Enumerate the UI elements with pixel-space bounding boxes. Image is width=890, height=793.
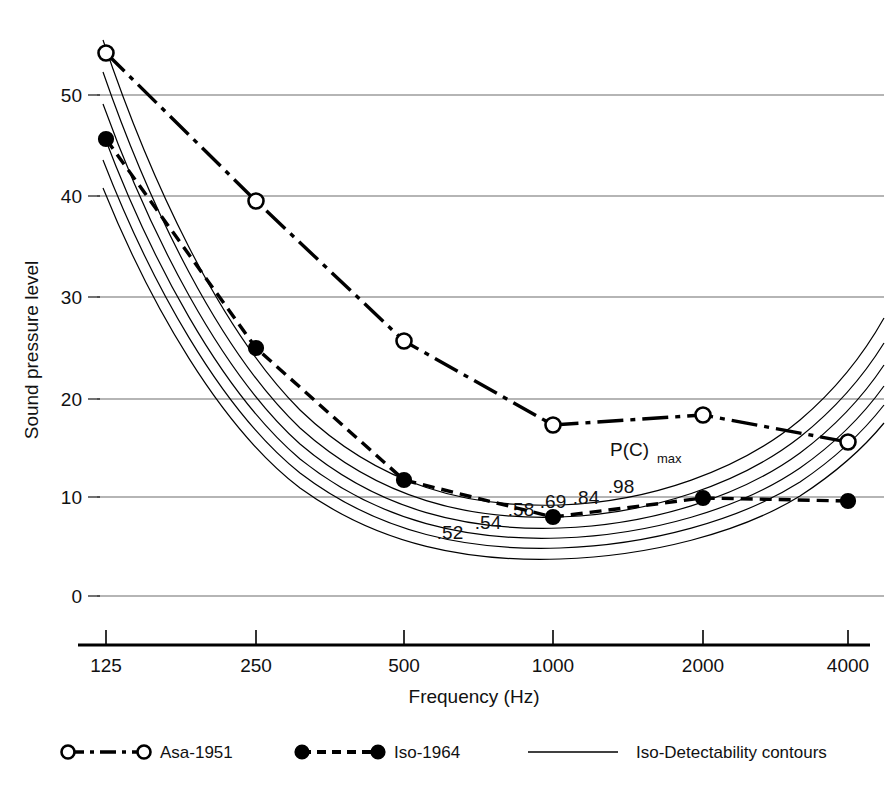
y-tick-label-0: 0 bbox=[71, 586, 82, 607]
y-tick-label-20: 20 bbox=[61, 389, 82, 410]
legend-marker-iso-left bbox=[296, 746, 309, 759]
legend-label-asa-1951: Asa-1951 bbox=[160, 743, 233, 762]
y-tick-label-40: 40 bbox=[61, 186, 82, 207]
chart-figure: 50 40 30 20 10 0 Sound pressure level .9… bbox=[0, 0, 890, 793]
data-point-asa-500 bbox=[397, 334, 412, 349]
pc-max-label: P(C) bbox=[610, 439, 649, 460]
y-tick-label-10: 10 bbox=[61, 487, 82, 508]
data-point-iso-4000 bbox=[841, 494, 855, 508]
x-tick-label-500: 500 bbox=[388, 655, 420, 676]
data-point-asa-125 bbox=[99, 46, 114, 61]
contour-label-84: .84 bbox=[573, 487, 600, 508]
legend-label-iso-1964: Iso-1964 bbox=[394, 743, 460, 762]
y-tick-label-30: 30 bbox=[61, 287, 82, 308]
legend-label-iso-detectability-contours: Iso-Detectability contours bbox=[636, 743, 827, 762]
data-point-iso-250 bbox=[249, 341, 263, 355]
data-point-asa-250 bbox=[249, 194, 264, 209]
x-axis-title: Frequency (Hz) bbox=[409, 686, 540, 707]
data-point-asa-2000 bbox=[696, 408, 711, 423]
data-point-asa-4000 bbox=[841, 435, 856, 450]
data-point-iso-500 bbox=[397, 473, 411, 487]
y-tick-label-50: 50 bbox=[61, 85, 82, 106]
contour-label-54: .54 bbox=[475, 512, 502, 533]
chart-legend: Asa-1951 Iso-1964 Iso-Detectability cont… bbox=[62, 743, 827, 762]
legend-marker-iso-right bbox=[372, 746, 385, 759]
contour-label-69: .69 bbox=[540, 491, 566, 512]
x-tick-label-2000: 2000 bbox=[682, 655, 724, 676]
data-point-iso-125 bbox=[99, 132, 113, 146]
pc-max-subscript: max bbox=[657, 451, 682, 466]
data-point-iso-2000 bbox=[696, 491, 710, 505]
chart-background bbox=[0, 0, 890, 793]
x-tick-label-125: 125 bbox=[90, 655, 122, 676]
data-point-iso-1000 bbox=[546, 510, 560, 524]
chart-svg: 50 40 30 20 10 0 Sound pressure level .9… bbox=[0, 0, 890, 793]
contour-label-52: .52 bbox=[437, 522, 463, 543]
legend-marker-asa-left bbox=[62, 746, 75, 759]
legend-marker-asa-right bbox=[138, 746, 151, 759]
x-tick-label-250: 250 bbox=[240, 655, 272, 676]
contour-label-98: .98 bbox=[608, 476, 634, 497]
y-axis-title: Sound pressure level bbox=[21, 261, 42, 440]
data-point-asa-1000 bbox=[546, 418, 561, 433]
x-tick-label-1000: 1000 bbox=[532, 655, 574, 676]
x-tick-label-4000: 4000 bbox=[827, 655, 869, 676]
